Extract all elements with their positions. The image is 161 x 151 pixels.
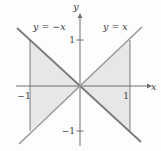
y-axis-label: y bbox=[72, 1, 79, 12]
x-tick-neg-label: −1 bbox=[17, 91, 30, 101]
x-axis-label: x bbox=[151, 81, 157, 92]
function-plot: y = −x y = x y x 1 −1 −1 1 bbox=[0, 0, 161, 151]
figure-canvas: y = −x y = x y x 1 −1 −1 1 bbox=[0, 0, 161, 151]
y-tick-pos-label: 1 bbox=[69, 35, 75, 45]
x-tick-pos-label: 1 bbox=[123, 91, 129, 101]
label-y-equals-neg-x: y = −x bbox=[32, 21, 66, 32]
label-y-equals-x: y = x bbox=[102, 21, 128, 32]
y-tick-neg-label: −1 bbox=[62, 126, 75, 136]
